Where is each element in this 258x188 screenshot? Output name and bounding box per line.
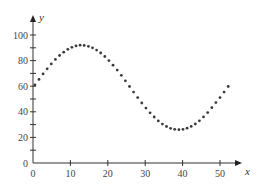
data-point (169, 127, 172, 130)
data-point (173, 128, 176, 131)
y-tick-label: 100 (13, 30, 28, 41)
data-point (161, 123, 164, 126)
data-point (112, 64, 115, 67)
data-point (186, 127, 189, 130)
data-point (215, 101, 218, 104)
data-point (124, 79, 127, 82)
data-point (145, 107, 148, 110)
data-point (42, 73, 45, 76)
data-point (34, 84, 37, 87)
y-axis-arrow-icon (30, 15, 36, 22)
data-point (182, 128, 185, 131)
data-point (202, 116, 205, 119)
data-point (46, 67, 49, 70)
data-point (128, 85, 131, 88)
data-point (227, 85, 230, 88)
data-point (108, 59, 111, 62)
axes: x y (30, 11, 250, 177)
x-tick-label: 50 (215, 168, 225, 179)
x-tick-label: 0 (31, 168, 36, 179)
data-point (153, 116, 156, 119)
data-point (149, 111, 152, 114)
x-tick-label: 40 (178, 168, 188, 179)
data-point (219, 96, 222, 99)
data-point (223, 91, 226, 94)
scatter-chart: x y 01020304050 020406080100 (0, 0, 258, 188)
x-tick-label: 10 (65, 168, 75, 179)
x-axis-label: x (244, 165, 250, 177)
y-tick-label: 60 (18, 81, 28, 92)
data-point (62, 51, 65, 54)
data-point (116, 69, 119, 72)
data-points (34, 44, 230, 131)
x-axis-arrow-icon (235, 160, 242, 166)
data-point (198, 119, 201, 122)
data-point (206, 111, 209, 114)
data-point (190, 125, 193, 128)
data-point (132, 91, 135, 94)
data-point (58, 54, 61, 57)
data-point (66, 48, 69, 51)
data-point (178, 128, 181, 131)
data-point (136, 96, 139, 99)
data-point (75, 45, 78, 48)
data-point (91, 46, 94, 49)
data-point (79, 44, 82, 47)
data-point (140, 102, 143, 105)
data-point (157, 120, 160, 123)
data-point (83, 44, 86, 47)
data-point (120, 74, 123, 77)
y-tick-label: 0 (23, 158, 28, 169)
data-point (99, 52, 102, 55)
data-point (54, 58, 57, 61)
y-tick-label: 20 (18, 132, 28, 143)
data-point (38, 78, 41, 81)
data-point (165, 125, 168, 128)
data-point (87, 45, 90, 48)
data-point (50, 63, 53, 66)
y-tick-label: 40 (18, 106, 28, 117)
x-tick-label: 30 (140, 168, 150, 179)
data-point (210, 106, 213, 109)
data-point (194, 123, 197, 126)
data-point (71, 46, 74, 49)
y-axis-label: y (38, 11, 44, 23)
data-point (95, 49, 98, 52)
data-point (103, 55, 106, 58)
y-tick-label: 80 (18, 55, 28, 66)
x-tick-label: 20 (103, 168, 113, 179)
